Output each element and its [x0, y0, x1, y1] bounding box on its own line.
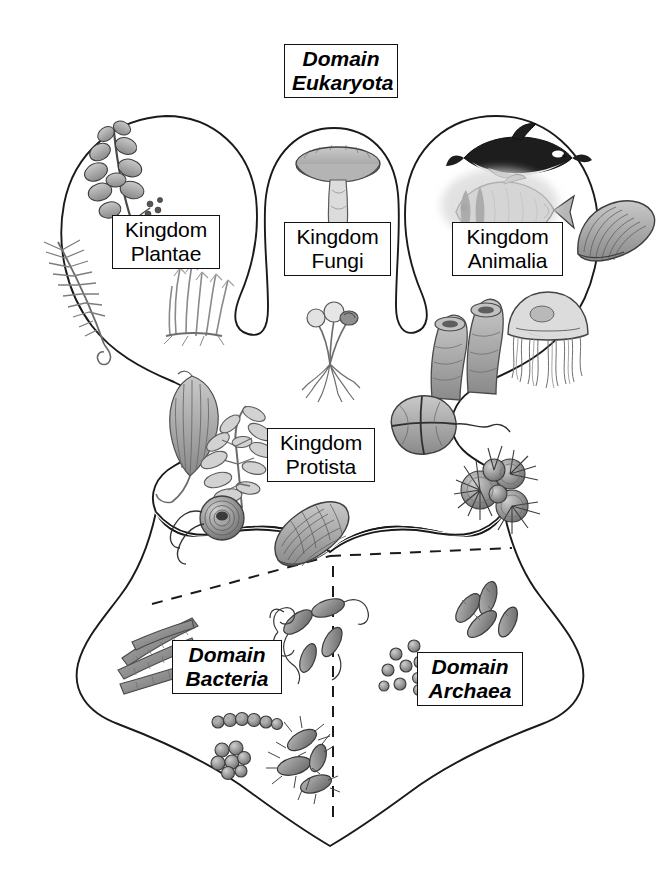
label-line-1: Kingdom [120, 218, 212, 242]
label-line-1: Domain [292, 47, 390, 71]
label-line-1: Domain [425, 655, 515, 679]
archaeal-rods-icon [451, 579, 521, 642]
staphylococcus-cluster-icon [211, 741, 251, 780]
label-domain-archaea: Domain Archaea [417, 652, 523, 706]
label-kingdom-plantae: Kingdom Plantae [112, 215, 220, 269]
label-line-2: Bacteria [180, 667, 274, 691]
radiolarian-icon [454, 446, 540, 534]
streptococcus-chain-icon [212, 713, 283, 730]
flowering-branch-icon [82, 118, 163, 222]
label-line-2: Eukaryota [292, 71, 390, 95]
label-line-1: Kingdom [275, 431, 367, 455]
jellyfish-icon [508, 292, 588, 388]
fern-frond-icon [44, 240, 111, 365]
label-line-1: Kingdom [460, 225, 555, 249]
tube-sponge-icon [431, 299, 503, 400]
label-line-1: Domain [180, 643, 274, 667]
label-line-2: Archaea [425, 679, 515, 703]
label-line-1: Kingdom [292, 225, 383, 249]
label-domain-bacteria: Domain Bacteria [172, 640, 282, 694]
label-domain-eukaryota: Domain Eukaryota [284, 44, 398, 98]
clam-shell-icon [578, 201, 655, 261]
label-line-2: Protista [275, 455, 367, 479]
dinoflagellate-icon [391, 396, 510, 454]
moss-clump-icon [164, 264, 234, 346]
label-kingdom-fungi: Kingdom Fungi [284, 222, 391, 276]
label-line-2: Plantae [120, 242, 212, 266]
mold-sporangia-icon [302, 302, 360, 402]
label-kingdom-animalia: Kingdom Animalia [452, 222, 563, 276]
tree-of-life-diagram: Domain Eukaryota Kingdom Plantae Kingdom… [0, 0, 660, 880]
label-kingdom-protista: Kingdom Protista [267, 428, 375, 482]
flagellate-icon [170, 496, 244, 564]
diatom-icon [275, 502, 349, 566]
vibrio-flagellated-icon [270, 595, 368, 684]
label-line-2: Fungi [292, 249, 383, 273]
label-line-2: Animalia [460, 249, 555, 273]
